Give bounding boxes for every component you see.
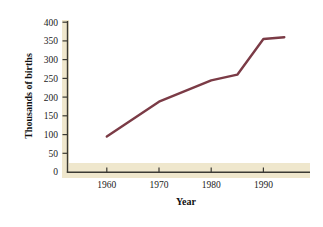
y-tick-label: 100 (44, 130, 59, 140)
x-tick-label: 1970 (150, 180, 169, 190)
y-tick-label: 300 (44, 55, 59, 65)
x-axis-title: Year (176, 196, 197, 207)
axis-shadow-band (62, 20, 310, 178)
y-tick-label: 150 (44, 111, 59, 121)
line-chart: 400 350 300 250 200 150 100 50 0 1960 19… (0, 0, 323, 227)
y-tick-label: 400 (44, 18, 59, 28)
x-tick-label: 1990 (254, 180, 273, 190)
y-tick-label: 250 (44, 74, 59, 84)
chart-figure: 400 350 300 250 200 150 100 50 0 1960 19… (0, 0, 323, 227)
y-axis-title-text: Thousands of births (23, 53, 34, 139)
y-tick-label: 350 (44, 36, 59, 46)
x-tick-label: 1960 (97, 180, 116, 190)
y-tick-label: 200 (44, 93, 59, 103)
y-tick-labels: 400 350 300 250 200 150 100 50 0 (44, 18, 59, 178)
y-tick-label: 0 (53, 167, 58, 177)
x-tick-labels: 1960 1970 1980 1990 (97, 180, 273, 190)
data-line-series (107, 37, 284, 136)
x-tick-label: 1980 (202, 180, 221, 190)
y-tick-label: 50 (49, 149, 59, 159)
